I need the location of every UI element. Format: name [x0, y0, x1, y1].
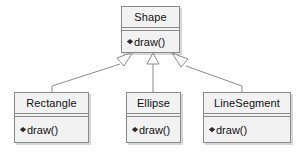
- filled-diamond-icon: [19, 126, 26, 133]
- members-compartment-linesegment: draw(): [204, 117, 290, 143]
- generalization-edge-ellipse-to-shape: [147, 53, 159, 92]
- member-row: draw(): [131, 124, 170, 137]
- generalization-edge-linesegment-to-shape: [172, 53, 242, 92]
- uml-class-shape[interactable]: Shape draw(): [121, 6, 180, 53]
- member-row: draw(): [19, 124, 58, 137]
- hollow-triangle-arrowhead: [172, 53, 188, 67]
- member-label: draw(): [216, 124, 247, 137]
- hollow-triangle-arrowhead: [117, 52, 133, 66]
- filled-diamond-icon: [126, 38, 133, 45]
- members-compartment-ellipse: draw(): [127, 117, 180, 143]
- class-name-ellipse: Ellipse: [127, 93, 180, 114]
- hollow-triangle-arrowhead: [147, 53, 159, 64]
- class-name-rectangle: Rectangle: [15, 93, 88, 114]
- generalization-edge-rectangle-to-shape: [52, 52, 133, 92]
- class-name-linesegment: LineSegment: [204, 93, 290, 114]
- member-row: draw(): [208, 124, 247, 137]
- member-row: draw(): [126, 36, 165, 49]
- uml-class-rectangle[interactable]: Rectangle draw(): [14, 92, 89, 143]
- member-label: draw(): [134, 36, 165, 49]
- filled-diamond-icon: [208, 126, 215, 133]
- member-label: draw(): [139, 124, 170, 137]
- member-label: draw(): [27, 124, 58, 137]
- uml-class-linesegment[interactable]: LineSegment draw(): [203, 92, 291, 143]
- uml-class-ellipse[interactable]: Ellipse draw(): [126, 92, 181, 143]
- class-name-shape: Shape: [122, 7, 179, 28]
- members-compartment-rectangle: draw(): [15, 117, 88, 143]
- filled-diamond-icon: [131, 126, 138, 133]
- members-compartment-shape: draw(): [122, 31, 179, 53]
- uml-class-diagram: Shape draw() Rectangle: [0, 0, 300, 152]
